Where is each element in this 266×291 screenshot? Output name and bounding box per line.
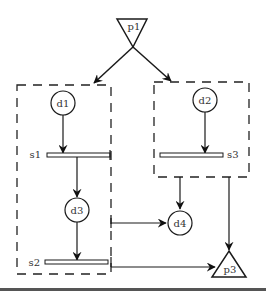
node-p1: p1: [117, 19, 147, 47]
edge-p1-right: [133, 47, 171, 81]
d1-label: d1: [57, 98, 70, 109]
p1-label: p1: [128, 21, 141, 32]
s2-label: s2: [29, 257, 41, 268]
node-s3: s3: [160, 149, 239, 160]
s1-label: s1: [30, 149, 42, 160]
d4-label: d4: [174, 218, 187, 229]
s2-bar: [45, 260, 108, 264]
d3-label: d3: [71, 205, 84, 216]
node-d3: d3: [65, 198, 89, 222]
edge-p1-left: [94, 47, 133, 83]
diagram-canvas: p1 d1 s1 d3 s2 d2 s3: [0, 0, 266, 291]
node-s2: s2: [29, 257, 112, 268]
node-d2: d2: [193, 88, 217, 112]
s3-label: s3: [227, 149, 239, 160]
node-d4: d4: [168, 211, 192, 235]
d2-label: d2: [199, 95, 212, 106]
node-s1: s1: [30, 149, 111, 160]
p3-label: p3: [224, 264, 237, 275]
s1-bar: [47, 153, 110, 157]
s3-bar: [160, 153, 223, 157]
node-d1: d1: [51, 91, 75, 115]
node-p3: p3: [212, 251, 246, 277]
